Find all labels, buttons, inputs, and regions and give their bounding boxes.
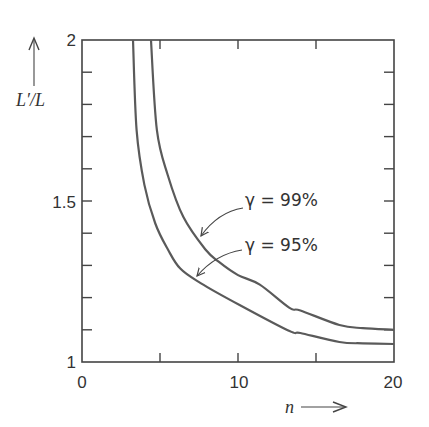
x-tick-label-20: 20	[384, 373, 403, 392]
series-line-gamma-99	[151, 40, 394, 330]
y-tick-label-1: 1	[67, 353, 76, 372]
x-axis-label-group: n	[285, 397, 346, 417]
annotation-gamma-99: γ = 99%	[201, 190, 318, 236]
x-tick-label-10: 10	[230, 373, 249, 392]
annotation-arrow-icon	[201, 208, 243, 236]
annotation-gamma-95: γ = 95%	[197, 235, 318, 276]
plot-frame	[82, 40, 394, 362]
y-tick-label-2: 2	[67, 31, 76, 50]
x-axis-label: n	[285, 397, 294, 417]
axis-ticks	[82, 40, 394, 362]
y-axis-label-group: L′/L	[15, 38, 45, 110]
annotation-label-gamma-99: γ = 99%	[245, 190, 318, 210]
y-tick-label-1-5: 1.5	[52, 193, 76, 212]
chart: L′/L 2 1.5 1 0 10 20 n γ = 99% γ = 95%	[0, 0, 429, 427]
annotation-label-gamma-95: γ = 95%	[245, 235, 318, 255]
y-axis-label: L′/L	[15, 90, 45, 110]
x-tick-label-0: 0	[77, 373, 86, 392]
